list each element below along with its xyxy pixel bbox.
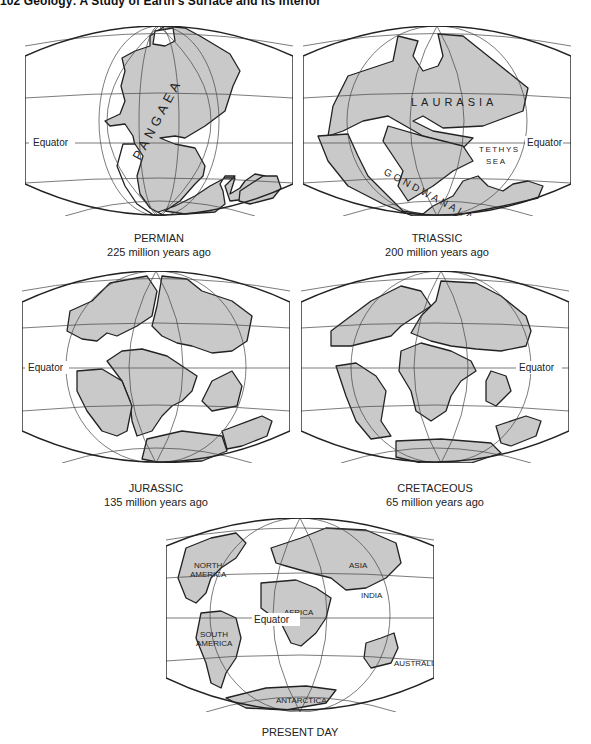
asia-label: ASIA (349, 561, 368, 570)
caption-jurassic: JURASSIC 135 million years ago (22, 481, 290, 509)
period-age: 225 million years ago (25, 245, 293, 259)
south-america-label-2: AMERICA (196, 639, 233, 648)
period-name: CRETACEOUS (301, 481, 569, 495)
india-label: INDIA (361, 591, 383, 600)
map-cretaceous: Equator (301, 271, 569, 463)
australia-landmass (364, 633, 398, 668)
caption-triassic: TRIASSIC 200 million years ago (303, 231, 571, 259)
period-age: 200 million years ago (303, 245, 571, 259)
period-age: 135 million years ago (22, 495, 290, 509)
period-name: JURASSIC (22, 481, 290, 495)
equator-label: Equator (28, 362, 64, 373)
period-name: TRIASSIC (303, 231, 571, 245)
map-jurassic: Equator (22, 271, 290, 463)
laurasia-label: LAURASIA (411, 96, 497, 108)
antarctica-label: ANTARCTICA (276, 696, 327, 705)
map-permian: Equator PANGAEA (25, 26, 293, 216)
caption-present-day: PRESENT DAY (166, 725, 434, 739)
map-triassic: LAURASIA TETHYS SEA Equator GONDWANALAND (303, 26, 571, 216)
tethys-label: TETHYS (479, 145, 520, 154)
map-present-day: NORTH AMERICA SOUTH AMERICA AFRICA ASIA … (166, 518, 434, 712)
period-name: PERMIAN (25, 231, 293, 245)
period-age: 65 million years ago (301, 495, 569, 509)
caption-permian: PERMIAN 225 million years ago (25, 231, 293, 259)
equator-label: Equator (527, 137, 563, 148)
south-america-landmass (196, 611, 241, 688)
page-header: 102 Geology: A Study of Earth's Surface … (0, 0, 321, 8)
north-america-label: NORTH (194, 561, 223, 570)
equator-label: Equator (254, 614, 290, 625)
equator-label: Equator (519, 362, 555, 373)
south-america-label: SOUTH (200, 630, 228, 639)
sea-label: SEA (486, 157, 507, 166)
period-name: PRESENT DAY (166, 725, 434, 739)
australia-label: AUSTRALIA (394, 659, 434, 668)
equator-label: Equator (33, 137, 69, 148)
north-america-label-2: AMERICA (190, 570, 227, 579)
caption-cretaceous: CRETACEOUS 65 million years ago (301, 481, 569, 509)
